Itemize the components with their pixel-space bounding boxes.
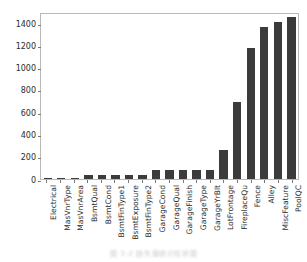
bar-slot — [271, 14, 285, 179]
y-tick-mark — [38, 25, 41, 26]
x-tick-mark — [278, 180, 279, 183]
bar — [138, 175, 146, 179]
x-tick-mark — [169, 180, 170, 183]
bar — [206, 170, 214, 179]
bar-slot — [258, 14, 272, 179]
bar — [260, 27, 268, 179]
bar — [125, 175, 133, 179]
plot-axes: 0200400600800100012001400 — [40, 13, 299, 180]
bar-slot — [41, 14, 55, 179]
x-tick-mark — [196, 180, 197, 183]
bar-slot — [285, 14, 298, 179]
bar — [57, 178, 65, 179]
y-tick-label: 200 — [21, 153, 36, 163]
x-tick-mark — [292, 180, 293, 183]
bar — [219, 150, 227, 179]
x-tick-mark — [155, 180, 156, 183]
x-tick-mark — [264, 180, 265, 183]
bar-slot — [217, 14, 231, 179]
bar-slot — [190, 14, 204, 179]
y-tick-mark — [38, 158, 41, 159]
bar-slot — [122, 14, 136, 179]
x-tick-mark — [183, 180, 184, 183]
bar-slot — [82, 14, 96, 179]
bar — [233, 102, 241, 179]
x-tick-mark — [223, 180, 224, 183]
y-tick-mark — [38, 114, 41, 115]
bar — [71, 178, 79, 179]
x-tick-mark — [128, 180, 129, 183]
bar — [44, 178, 52, 179]
y-tick-label: 0 — [31, 176, 36, 186]
y-tick-label: 1200 — [16, 42, 36, 52]
bar — [152, 170, 160, 179]
bar — [192, 170, 200, 179]
bar — [287, 17, 295, 179]
bar — [165, 170, 173, 179]
x-tick-mark — [210, 180, 211, 183]
y-tick-label: 600 — [21, 109, 36, 119]
bar-slot — [149, 14, 163, 179]
bar-slot — [176, 14, 190, 179]
bar-slot — [230, 14, 244, 179]
y-tick-label: 400 — [21, 131, 36, 141]
bar — [274, 22, 282, 179]
bar-slot — [68, 14, 82, 179]
bar-series — [41, 14, 298, 179]
x-tick-mark — [114, 180, 115, 183]
x-tick-mark — [74, 180, 75, 183]
x-tick-mark — [251, 180, 252, 183]
y-tick-mark — [38, 47, 41, 48]
bar-slot — [244, 14, 258, 179]
x-tick-label: PoolQC — [295, 185, 303, 212]
bar — [179, 170, 187, 179]
y-tick-label: 800 — [21, 86, 36, 96]
y-tick-mark — [38, 91, 41, 92]
x-tick-mark — [87, 180, 88, 183]
bar — [111, 175, 119, 179]
y-tick-label: 1400 — [16, 20, 36, 30]
bar-slot — [95, 14, 109, 179]
figure-caption: 图 3-2 缺失值统计柱状图 — [0, 248, 307, 258]
bar-slot — [55, 14, 69, 179]
y-tick-mark — [38, 136, 41, 137]
x-tick-mark — [101, 180, 102, 183]
plot-area — [41, 14, 298, 179]
bar-slot — [109, 14, 123, 179]
x-tick-mark — [46, 180, 47, 183]
bar-slot — [163, 14, 177, 179]
x-tick-mark — [237, 180, 238, 183]
x-tick-mark — [142, 180, 143, 183]
x-tick-mark — [60, 180, 61, 183]
bar — [98, 175, 106, 179]
bar — [247, 48, 255, 179]
y-tick-label: 1000 — [16, 64, 36, 74]
bar-slot — [136, 14, 150, 179]
bar-slot — [203, 14, 217, 179]
y-tick-mark — [38, 69, 41, 70]
bar — [84, 175, 92, 179]
figure-container: 0200400600800100012001400 ElectricalMasV… — [0, 0, 307, 262]
